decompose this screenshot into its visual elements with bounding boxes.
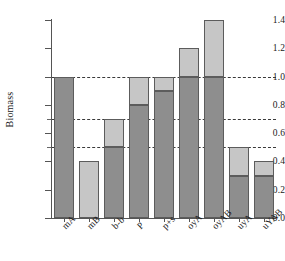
bar-segment — [254, 161, 274, 175]
y-axis-title: Biomass — [2, 0, 18, 218]
bar-group — [229, 20, 249, 218]
bar-segment — [129, 77, 149, 105]
bar-group — [154, 20, 174, 218]
biomass-bar-chart: Biomass 0.00.20.40.60.81.01.21.4 mAmBb-b… — [0, 0, 285, 261]
y-tick-mark — [45, 48, 51, 49]
bar-group — [79, 20, 99, 218]
bar-segment — [129, 105, 149, 218]
bar-segment — [204, 77, 224, 218]
bar-segment — [79, 161, 99, 218]
y-tick-mark — [45, 105, 51, 106]
plot-area — [52, 20, 276, 218]
bar-segment — [154, 91, 174, 218]
bars-layer — [52, 20, 276, 218]
bar-segment — [54, 77, 74, 218]
bar-segment — [104, 147, 124, 218]
y-tick-mark — [45, 133, 51, 134]
bar-group — [54, 20, 74, 218]
y-minor-tick-mark — [47, 119, 51, 120]
bar-segment — [229, 147, 249, 175]
y-tick-mark — [45, 161, 51, 162]
y-minor-tick-mark — [47, 147, 51, 148]
bar-group — [179, 20, 199, 218]
y-axis-title-text: Biomass — [5, 91, 16, 127]
y-tick-mark — [45, 190, 51, 191]
bar-group — [204, 20, 224, 218]
bar-segment — [154, 77, 174, 91]
bar-segment — [104, 119, 124, 147]
y-tick-mark — [45, 218, 51, 219]
bar-segment — [204, 20, 224, 77]
bar-segment — [179, 77, 199, 218]
bar-group — [104, 20, 124, 218]
y-tick-mark — [45, 20, 51, 21]
bar-segment — [179, 48, 199, 76]
y-tick-mark — [45, 77, 51, 78]
bar-group — [129, 20, 149, 218]
x-tick-label: P — [135, 220, 146, 231]
bar-group — [254, 20, 274, 218]
